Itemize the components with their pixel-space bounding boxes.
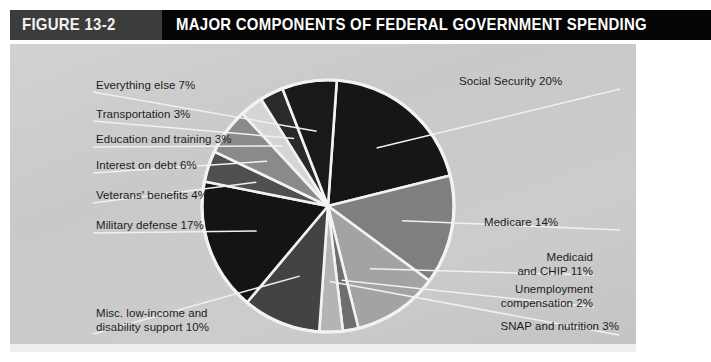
- pie-label-medicaid-chip: Medicaid and CHIP 11%: [443, 251, 593, 278]
- pie-label-unemployment-line1: Unemployment: [443, 283, 593, 297]
- pie-label-education-training: Education and training 3%: [96, 133, 232, 147]
- pie-label-unemployment-compensation: Unemployment compensation 2%: [443, 283, 593, 310]
- pie-label-veterans-benefits: Veterans' benefits 4%: [96, 189, 208, 203]
- pie-label-transportation: Transportation 3%: [96, 108, 190, 122]
- pie-label-military-defense: Military defense 17%: [96, 219, 204, 233]
- figure-title-box: MAJOR COMPONENTS OF FEDERAL GOVERNMENT S…: [162, 10, 711, 40]
- figure-header-bar: FIGURE 13-2 MAJOR COMPONENTS OF FEDERAL …: [10, 10, 636, 40]
- pie-label-interest-on-debt-line1: Interest on debt 6%: [96, 159, 197, 173]
- pie-label-interest-on-debt: Interest on debt 6%: [96, 159, 197, 173]
- pie-label-social-security: Social Security 20%: [459, 75, 562, 89]
- panel-bottom-edge: [10, 344, 636, 352]
- pie-label-misc-low-income: Misc. low-income and disability support …: [96, 307, 209, 334]
- figure-number-box: FIGURE 13-2: [10, 10, 162, 40]
- pie-label-social-security-line1: Social Security 20%: [459, 75, 562, 89]
- pie-label-education-training-line1: Education and training 3%: [96, 133, 232, 147]
- pie-label-medicaid-chip-line2: and CHIP 11%: [443, 265, 593, 279]
- pie-label-everything-else-line1: Everything else 7%: [96, 79, 195, 93]
- figure-title-label: MAJOR COMPONENTS OF FEDERAL GOVERNMENT S…: [176, 15, 647, 35]
- pie-label-military-defense-line1: Military defense 17%: [96, 219, 204, 233]
- pie-label-everything-else: Everything else 7%: [96, 79, 195, 93]
- pie-label-snap-nutrition: SNAP and nutrition 3%: [429, 320, 619, 334]
- pie-label-transportation-line1: Transportation 3%: [96, 108, 190, 122]
- figure-number-label: FIGURE 13-2: [22, 15, 116, 35]
- pie-label-misc-low-income-line2: disability support 10%: [96, 321, 209, 335]
- pie-label-medicare-line1: Medicare 14%: [484, 216, 558, 230]
- pie-label-veterans-benefits-line1: Veterans' benefits 4%: [96, 189, 208, 203]
- pie-label-medicaid-chip-line1: Medicaid: [443, 251, 593, 265]
- pie-label-medicare: Medicare 14%: [484, 216, 558, 230]
- pie-label-misc-low-income-line1: Misc. low-income and: [96, 307, 209, 321]
- pie-label-unemployment-line2: compensation 2%: [443, 297, 593, 311]
- pie-label-snap-line1: SNAP and nutrition 3%: [429, 320, 619, 334]
